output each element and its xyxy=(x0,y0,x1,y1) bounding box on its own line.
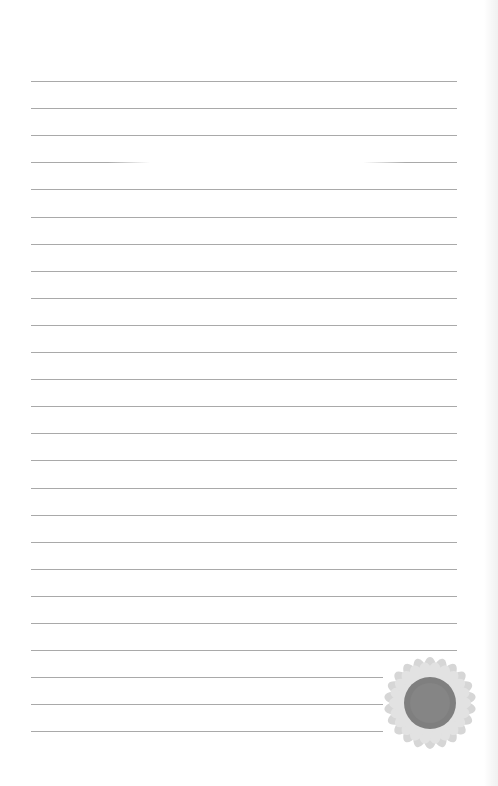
ruled-line xyxy=(31,488,457,489)
page-edge-shadow xyxy=(484,0,498,786)
ruled-line xyxy=(31,704,383,705)
ruled-line xyxy=(31,135,457,136)
ruled-line xyxy=(31,623,457,624)
ruled-line xyxy=(31,731,383,732)
ruled-line xyxy=(31,677,383,678)
ruled-line xyxy=(31,569,457,570)
ruled-line xyxy=(31,542,457,543)
ruled-line xyxy=(31,515,457,516)
ruled-line xyxy=(31,596,457,597)
ruled-line xyxy=(31,217,457,218)
ruled-line xyxy=(31,298,457,299)
sunflower-icon xyxy=(380,653,480,753)
ruled-line xyxy=(31,81,457,82)
ruled-line xyxy=(31,460,457,461)
ruled-line xyxy=(31,325,457,326)
ruled-line xyxy=(31,379,457,380)
ruled-line xyxy=(31,244,457,245)
ruled-line xyxy=(31,162,457,163)
ruled-line xyxy=(31,271,457,272)
ruled-line xyxy=(31,650,457,651)
ruled-line xyxy=(31,406,457,407)
ruled-line xyxy=(31,108,457,109)
ruled-line xyxy=(31,189,457,190)
ruled-line xyxy=(31,352,457,353)
ruled-line xyxy=(31,433,457,434)
notepaper-page xyxy=(0,0,498,786)
